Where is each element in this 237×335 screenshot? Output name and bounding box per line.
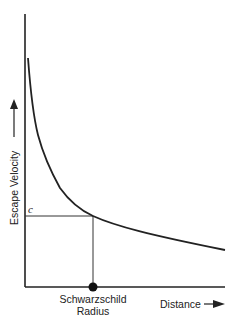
c-label: c [28, 203, 33, 215]
schwarzschild-label-line2: Radius [77, 305, 110, 317]
y-axis-label-group: Escape Velocity [8, 99, 20, 225]
x-axis-arrow-icon [213, 300, 225, 308]
escape-velocity-curve [28, 58, 225, 250]
y-axis-label: Escape Velocity [8, 150, 20, 225]
y-axis-arrow-icon [10, 99, 18, 109]
x-axis-label: Distance [160, 298, 201, 310]
schwarzschild-label-line1: Schwarzschild [59, 293, 126, 305]
schwarzschild-radius-dot [89, 283, 98, 292]
escape-velocity-diagram: c Escape Velocity Schwarzschild Radius D… [0, 0, 237, 335]
